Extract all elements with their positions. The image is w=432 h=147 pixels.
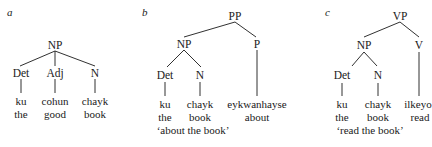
node-v: V	[415, 39, 423, 51]
gloss-good: good	[44, 108, 66, 120]
node-np: NP	[48, 39, 63, 51]
node-det: Det	[334, 69, 351, 81]
node-np: NP	[177, 38, 192, 50]
translation: ‘about the book’	[157, 124, 230, 136]
node-np: NP	[357, 39, 372, 51]
node-det: Det	[157, 69, 174, 81]
translation: ‘read the book’	[336, 124, 403, 136]
node-det: Det	[13, 67, 30, 79]
node-pp: PP	[229, 10, 242, 22]
word-ku: ku	[337, 98, 348, 110]
word-chayk: chayk	[187, 98, 213, 110]
word-chayk: chayk	[82, 95, 108, 107]
gloss-book: book	[84, 108, 106, 120]
gloss-book: book	[367, 111, 389, 123]
node-n: N	[91, 67, 99, 79]
node-n: N	[196, 69, 204, 81]
node-adj: Adj	[46, 67, 63, 79]
word-ku: ku	[160, 98, 171, 110]
node-n: N	[374, 69, 382, 81]
node-vp: VP	[393, 10, 408, 22]
word-ilkeyo: ilkeyo	[404, 98, 432, 110]
gloss-about: about	[245, 111, 269, 123]
word-eykwanhayse: eykwanhayse	[227, 98, 286, 110]
panel-label-a: a	[7, 6, 13, 18]
word-chayk: chayk	[365, 98, 391, 110]
word-cohun: cohun	[42, 95, 69, 107]
gloss-read: read	[411, 111, 430, 123]
panel-label-c: c	[325, 6, 330, 18]
node-p: P	[254, 38, 260, 50]
gloss-the: the	[14, 108, 27, 120]
panel-label-b: b	[142, 6, 148, 18]
gloss-book: book	[189, 111, 211, 123]
word-ku: ku	[16, 95, 27, 107]
gloss-the: the	[335, 111, 348, 123]
gloss-the: the	[158, 111, 171, 123]
